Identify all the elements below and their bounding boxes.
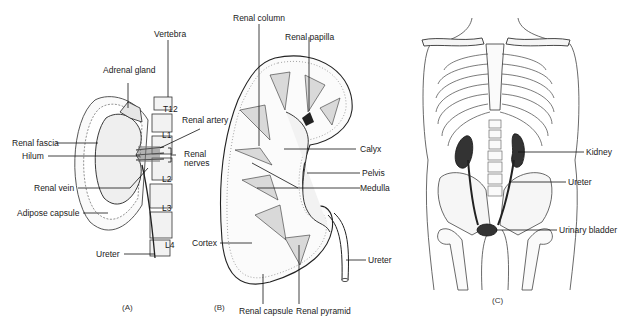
caption-b: (B) [214,303,225,312]
label-l1: L1 [162,130,171,140]
panel-a-kidney-position: Vertebra Adrenal gland T12 L1 L2 L3 L4 R… [0,0,200,322]
label-l3: L3 [162,203,171,213]
label-hilum: Hilum [22,151,44,161]
label-ureter-b: Ureter [368,255,392,265]
left-kidney-shape [455,136,473,168]
label-adrenal-gland: Adrenal gland [103,65,155,75]
panel-c-urinary-system: Kidney Ureter Urinary bladder (C) [410,0,628,322]
label-ureter-a: Ureter [96,249,120,259]
label-ureter-c: Ureter [568,177,592,187]
label-renal-papilla: Renal papilla [285,32,334,42]
label-urinary-bladder: Urinary bladder [559,225,617,235]
label-l4: L4 [165,240,174,250]
label-medulla: Medulla [360,183,390,193]
label-vertebra: Vertebra [154,29,186,39]
caption-c: (C) [492,296,503,305]
label-renal-column: Renal column [233,13,285,23]
label-renal-fascia: Renal fascia [12,138,59,148]
torso-urinary-system-illustration [410,0,628,322]
label-l2: L2 [162,174,171,184]
panel-b-kidney-cross-section: Renal column Renal papilla Calyx Pelvis … [200,0,410,322]
label-renal-vein: Renal vein [34,183,74,193]
label-calyx: Calyx [360,144,381,154]
caption-a: (A) [122,303,133,312]
label-pelvis: Pelvis [362,168,385,178]
kidney-side-view-illustration [0,0,200,322]
label-renal-pyramid: Renal pyramid [296,306,351,316]
label-renal-capsule: Renal capsule [239,306,293,316]
label-kidney: Kidney [586,147,612,157]
label-t12: T12 [163,104,178,114]
kidney-cross-section-illustration [200,0,410,322]
label-cortex: Cortex [192,238,217,248]
label-adipose-capsule: Adipose capsule [17,208,79,218]
